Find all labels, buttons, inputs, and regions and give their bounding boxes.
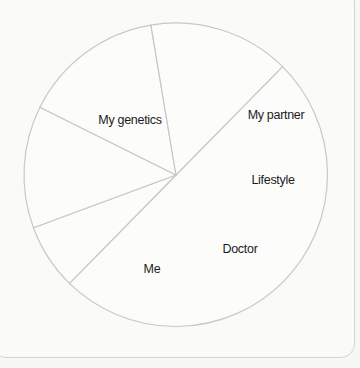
slice-label-doctor: Doctor bbox=[222, 242, 257, 256]
slice-label-me: Me bbox=[144, 262, 161, 276]
pie-chart: My genetics My partner Lifestyle Doctor … bbox=[0, 0, 360, 368]
slice-label-my-partner: My partner bbox=[248, 108, 305, 122]
slice-label-lifestyle: Lifestyle bbox=[251, 173, 295, 187]
slice-label-my-genetics: My genetics bbox=[98, 113, 161, 127]
